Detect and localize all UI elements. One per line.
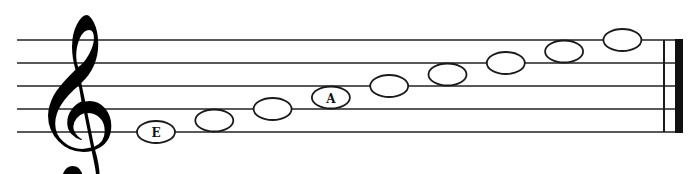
treble-clef-icon: 𝄞 — [30, 11, 119, 174]
note-f5 — [603, 29, 641, 51]
note-b4 — [370, 75, 408, 97]
note-c5 — [429, 64, 467, 86]
note-label: E — [151, 126, 160, 140]
music-staff: 𝄞 EA — [0, 0, 689, 174]
note-head — [545, 41, 583, 63]
note-head — [195, 110, 233, 132]
note-head — [370, 75, 408, 97]
note-head — [254, 98, 292, 120]
note-head — [487, 52, 525, 74]
note-head — [429, 64, 467, 86]
note-d5 — [487, 52, 525, 74]
note-head — [603, 29, 641, 51]
note-g4 — [254, 98, 292, 120]
note-f4 — [195, 110, 233, 132]
note-label: A — [325, 92, 336, 106]
thick-barline — [675, 39, 683, 133]
note-e5 — [545, 41, 583, 63]
note-e4: E — [137, 121, 175, 143]
note-a4: A — [312, 87, 350, 109]
